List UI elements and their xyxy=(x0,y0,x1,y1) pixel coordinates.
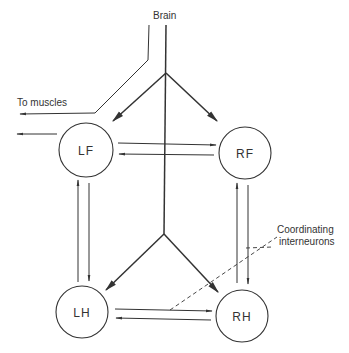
coordinating-pointer-1 xyxy=(246,247,273,248)
rf-to-lf-arrow xyxy=(119,154,214,155)
coordinating-label-line2: interneurons xyxy=(279,236,335,247)
brain-to-rh-arrow xyxy=(164,234,218,292)
coordinating-label-line1: Coordinating xyxy=(277,224,334,235)
node-rf-label: RF xyxy=(236,147,254,161)
brain-to-rf-arrow xyxy=(166,73,217,121)
brain-to-lh-arrow xyxy=(106,234,164,290)
lh-to-rh-arrow xyxy=(115,309,212,311)
node-lh-label: LH xyxy=(73,306,90,320)
to-muscles-label: To muscles xyxy=(17,97,67,108)
brain-trunk-line xyxy=(164,25,166,234)
brain-label: Brain xyxy=(153,10,176,21)
node-lf-label: LF xyxy=(78,144,94,158)
rh-to-lh-arrow xyxy=(116,318,211,320)
lf-to-rf-arrow xyxy=(118,143,216,145)
node-lh: LH xyxy=(56,286,108,338)
brain-to-lf-arrow xyxy=(113,73,166,121)
neural-coordination-diagram: Brain To muscles Coordinating interneuro… xyxy=(0,0,349,353)
node-rf: RF xyxy=(219,127,271,179)
node-rh: RH xyxy=(216,290,268,342)
node-lf: LF xyxy=(59,123,113,177)
node-rh-label: RH xyxy=(232,310,251,324)
